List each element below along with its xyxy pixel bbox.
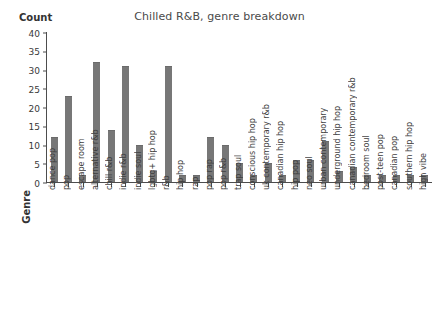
y-axis-tick-mark — [43, 145, 47, 146]
y-axis-tick-mark — [43, 33, 47, 34]
x-axis-tick-label: urban contemporary — [320, 108, 328, 190]
x-axis-tick-label: underground hip hop — [334, 106, 342, 190]
y-axis-tick-label: 20 — [29, 103, 40, 113]
x-axis-tick-label: uk contemporary r&b — [263, 104, 271, 190]
x-axis-tick-label: neo soul — [306, 156, 314, 190]
y-axis-tick-label: 35 — [29, 47, 40, 57]
x-axis-tick-label: trap soul — [235, 155, 243, 190]
x-axis-tick-label: post-teen pop — [377, 134, 385, 190]
x-axis-tick-label: chill r&b — [106, 157, 114, 190]
y-axis-tick: 20 — [29, 98, 47, 117]
y-axis-title: Count — [19, 12, 52, 23]
x-axis-tick-label: alternative r&b — [92, 130, 100, 190]
x-axis-tick-label: indie soul — [135, 152, 143, 190]
bar-slot — [65, 32, 72, 182]
x-axis-tick-label: dance pop — [49, 148, 57, 190]
y-axis-tick: 35 — [29, 41, 47, 60]
x-axis-title: Genre — [21, 190, 32, 224]
y-axis-tick-mark — [43, 126, 47, 127]
y-axis-tick: 30 — [29, 60, 47, 79]
y-axis-tick-label: 10 — [29, 141, 40, 151]
bar[interactable] — [65, 96, 72, 182]
y-axis-tick-label: 30 — [29, 66, 40, 76]
y-axis-tick-mark — [43, 89, 47, 90]
y-axis-tick: 40 — [29, 23, 47, 42]
bar-chart: Chilled R&B, genre breakdown Count Genre… — [0, 0, 439, 322]
x-axis-tick-label: indie r&b — [120, 153, 128, 190]
y-axis-tick-label: 0 — [34, 178, 40, 188]
y-axis-tick: 0 — [34, 173, 47, 192]
y-axis-tick-mark — [43, 70, 47, 71]
x-axis-tick-label: hip hop — [177, 160, 185, 190]
y-axis-tick-mark — [43, 164, 47, 165]
x-axis-tick-label: r&b — [163, 175, 171, 190]
x-axis-tick-label: pop r&b — [220, 158, 228, 190]
y-axis-tick-label: 25 — [29, 84, 40, 94]
x-axis-tick-label: conscious hip hop — [249, 118, 257, 190]
y-axis-tick: 25 — [29, 79, 47, 98]
x-axis-tick-label: escape room — [78, 138, 86, 190]
bar-slot — [165, 32, 172, 182]
bar[interactable] — [165, 66, 172, 182]
x-axis-tick-label: high vibe — [420, 153, 428, 190]
y-axis-tick-mark — [43, 108, 47, 109]
x-axis-tick-label: lgbtq+ hip hop — [149, 130, 157, 190]
y-axis-tick-mark — [43, 183, 47, 184]
y-axis-tick: 5 — [34, 154, 47, 173]
x-axis-tick-label: canadian contemporary r&b — [349, 77, 357, 190]
y-axis-tick-label: 5 — [34, 159, 40, 169]
x-axis-tick-label: canadian pop — [391, 136, 399, 190]
x-axis-tick-label: rap — [192, 177, 200, 190]
chart-title: Chilled R&B, genre breakdown — [0, 10, 439, 23]
bar-slot — [193, 32, 200, 182]
y-axis-tick: 10 — [29, 135, 47, 154]
x-axis-tick-label: pop — [63, 175, 71, 190]
y-axis-tick-mark — [43, 51, 47, 52]
x-axis-tick-label: hip pop — [292, 160, 300, 190]
x-axis-tick-label: southern hip hop — [406, 122, 414, 190]
x-axis-tick-label: bedroom soul — [363, 135, 371, 190]
x-axis-tick-label: canadian hip hop — [277, 121, 285, 190]
y-axis-tick-label: 40 — [29, 28, 40, 38]
y-axis-tick: 15 — [29, 116, 47, 135]
x-axis-tick-label: pop rap — [206, 159, 214, 190]
y-axis-tick-label: 15 — [29, 122, 40, 132]
